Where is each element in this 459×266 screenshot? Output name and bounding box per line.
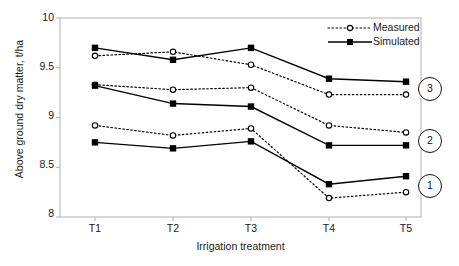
legend-label-measured: Measured (373, 20, 420, 34)
series-line-measured-group-1 (95, 125, 406, 198)
data-point-measured-T1-group-1 (92, 123, 97, 128)
data-point-measured-T5-group-1 (403, 189, 408, 194)
data-point-simulated-T4-group-3 (326, 75, 332, 81)
group-badge-2: 2 (418, 129, 442, 153)
data-point-measured-T1-group-3 (92, 53, 97, 58)
chart-container: Above ground dry matter, t/ha Irrigation… (0, 0, 459, 266)
series-line-simulated-group-2 (95, 86, 406, 146)
data-point-simulated-T2-group-1 (170, 145, 176, 151)
data-point-simulated-T2-group-2 (170, 100, 176, 106)
data-point-measured-T5-group-3 (403, 92, 408, 97)
legend-label-simulated: Simulated (373, 34, 420, 48)
data-point-measured-T4-group-2 (326, 123, 331, 128)
series-line-simulated-group-1 (95, 141, 406, 184)
legend: Measured Simulated (327, 20, 420, 48)
data-point-simulated-T2-group-3 (170, 57, 176, 63)
data-point-measured-T3-group-1 (248, 126, 253, 131)
data-point-measured-T2-group-3 (170, 49, 175, 54)
legend-entry-simulated: Simulated (327, 34, 420, 48)
data-point-measured-T2-group-2 (170, 87, 175, 92)
legend-swatch-measured (327, 20, 373, 34)
data-point-simulated-T5-group-2 (403, 142, 409, 148)
data-point-simulated-T3-group-3 (248, 45, 254, 51)
data-point-simulated-T5-group-1 (403, 173, 409, 179)
legend-entry-measured: Measured (327, 20, 420, 34)
legend-swatch-simulated (327, 34, 373, 48)
data-point-simulated-T4-group-1 (326, 181, 332, 187)
data-point-simulated-T1-group-2 (92, 82, 98, 88)
data-point-measured-T4-group-3 (326, 92, 331, 97)
data-point-measured-T4-group-1 (326, 195, 331, 200)
data-point-measured-T2-group-1 (170, 133, 175, 138)
group-badge-1: 1 (418, 174, 442, 198)
data-point-simulated-T3-group-1 (248, 138, 254, 144)
data-point-simulated-T3-group-2 (248, 103, 254, 109)
data-point-measured-T3-group-2 (248, 85, 253, 90)
data-point-measured-T5-group-2 (403, 130, 408, 135)
data-point-simulated-T5-group-3 (403, 78, 409, 84)
data-point-simulated-T4-group-2 (326, 142, 332, 148)
data-point-measured-T3-group-3 (248, 62, 253, 67)
data-point-simulated-T1-group-3 (92, 45, 98, 51)
group-badge-3: 3 (418, 77, 442, 101)
data-point-simulated-T1-group-1 (92, 139, 98, 145)
